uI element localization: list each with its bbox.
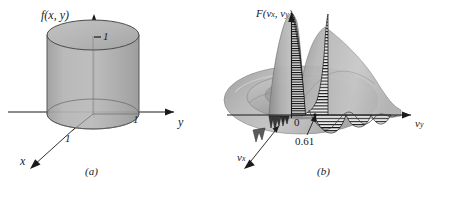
F-label-tail: ) [289,7,293,19]
airy-right-sheet [297,27,401,119]
panel-a-x-axis-label: x [20,155,25,167]
F-label-head: F( [256,7,266,19]
nu-y-subscript: y [420,120,424,129]
panel-a-graphic [0,0,225,197]
panel-a-x-radius-label: 1 [65,133,71,144]
panel-b-nu-x-label: νx [237,152,245,163]
nu-x-subscript: x [242,154,246,163]
panel-a-y-axis-label: y [178,116,183,128]
panel-b-nu-y-label: νy [415,118,423,129]
panel-a-f-axis-label: f(x, y) [41,9,69,21]
panel-a-caption: (a) [85,166,98,177]
panel-a-cylinder: f(x, y) 1 1 1 y x (a) [0,0,225,197]
panel-b-caption: (b) [317,166,330,177]
panel-b-first-zero-label: 0.61 [295,136,314,147]
airy-profile-slab [292,13,306,115]
panel-b-origin-label: 0 [294,117,300,128]
panel-b-graphic [225,0,449,197]
panel-b-F-axis-label: F(νx, νy) [256,8,292,19]
figure-container: f(x, y) 1 1 1 y x (a) [0,0,449,197]
panel-b-airy-surface: F(νx, νy) 0 0.61 νy νx (b) [225,0,449,197]
panel-a-y-radius-label: 1 [133,114,139,125]
panel-a-height-tick-label: 1 [103,31,109,42]
